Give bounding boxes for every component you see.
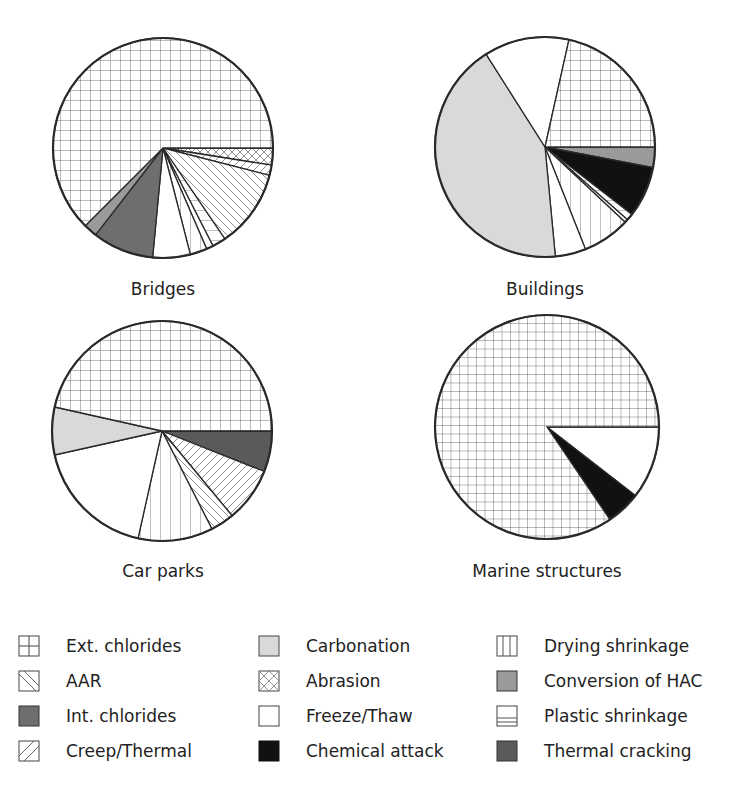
legend-item-conversion-of-hac: Conversion of HAC	[496, 667, 703, 695]
legend-item-ext-chlorides: Ext. chlorides	[18, 632, 181, 660]
legend-item-int-chlorides: Int. chlorides	[18, 702, 176, 730]
pie-bridges	[53, 38, 273, 258]
white-swatch-icon	[258, 705, 280, 727]
legend-item-chemical-attack: Chemical attack	[258, 737, 444, 765]
crosshatch-pattern-icon	[258, 670, 280, 692]
pie-title-marine-structures: Marine structures	[427, 561, 667, 581]
dark-gray-swatch-icon	[18, 705, 40, 727]
pie-title-bridges: Bridges	[43, 279, 283, 299]
legend-item-aar: AAR	[18, 667, 102, 695]
dark-gray-swatch-icon	[496, 740, 518, 762]
pie-slice	[55, 321, 272, 431]
pie-charts	[0, 0, 755, 630]
legend-item-plastic-shrinkage: Plastic shrinkage	[496, 702, 688, 730]
diagonal-down-pattern-icon	[18, 670, 40, 692]
grid-pattern-icon	[18, 635, 40, 657]
legend-item-abrasion: Abrasion	[258, 667, 381, 695]
diagonal-up-pattern-icon	[18, 740, 40, 762]
light-gray-swatch-icon	[258, 635, 280, 657]
pie-marine-structures	[435, 315, 659, 539]
legend-item-creep-thermal: Creep/Thermal	[18, 737, 192, 765]
pie-car-parks	[52, 321, 272, 541]
black-swatch-icon	[258, 740, 280, 762]
vertical-lines-pattern-icon	[496, 635, 518, 657]
legend-item-thermal-cracking: Thermal cracking	[496, 737, 692, 765]
legend-item-drying-shrinkage: Drying shrinkage	[496, 632, 689, 660]
pie-buildings	[435, 37, 655, 257]
horizontal-lines-pattern-icon	[496, 705, 518, 727]
legend-item-carbonation: Carbonation	[258, 632, 410, 660]
mid-gray-swatch-icon	[496, 670, 518, 692]
pie-title-buildings: Buildings	[425, 279, 665, 299]
pie-title-car-parks: Car parks	[43, 561, 283, 581]
legend-item-freeze-thaw: Freeze/Thaw	[258, 702, 413, 730]
